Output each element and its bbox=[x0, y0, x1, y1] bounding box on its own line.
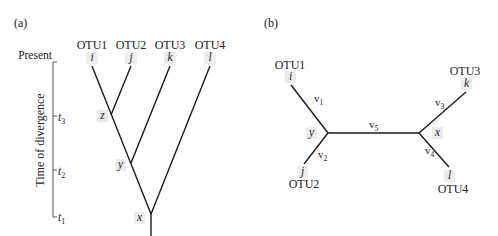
phylogenetic-trees-figure: (a) OTU1 OTU2 OTU3 OTU4 Present i j k l … bbox=[0, 0, 498, 236]
panel-a-label: (a) bbox=[14, 16, 27, 30]
node-z: z bbox=[99, 109, 105, 121]
b-leaf-i: i bbox=[289, 70, 292, 82]
branch-v4: v4 bbox=[425, 144, 435, 159]
leaf-i: i bbox=[90, 51, 93, 63]
b-otu3-label: OTU3 bbox=[450, 64, 481, 78]
branch-v5: v5 bbox=[369, 118, 379, 133]
b-otu2-label: OTU2 bbox=[289, 177, 320, 191]
leaf-k: k bbox=[167, 51, 173, 63]
tick-t1: t1 bbox=[58, 211, 65, 226]
otu1-label: OTU1 bbox=[77, 38, 108, 52]
panel-b-unrooted-tree: (b) OTU1 i j OTU2 OTU3 k l OTU4 y x v1 bbox=[264, 16, 480, 196]
b-leaf-l: l bbox=[448, 169, 451, 181]
otu2-label: OTU2 bbox=[116, 38, 147, 52]
panel-b-label: (b) bbox=[264, 16, 278, 30]
otu4-label: OTU4 bbox=[195, 38, 226, 52]
b-node-y: y bbox=[308, 126, 315, 139]
b-leaf-k: k bbox=[464, 77, 470, 89]
b-node-x: x bbox=[434, 126, 441, 138]
rooted-tree-branches bbox=[92, 66, 210, 236]
panel-a-rooted-tree: (a) OTU1 OTU2 OTU3 OTU4 Present i j k l … bbox=[14, 16, 225, 236]
time-axis-label: Time of divergence bbox=[33, 93, 47, 186]
branch-v3: v3 bbox=[435, 96, 445, 111]
node-y: y bbox=[117, 158, 124, 171]
leaf-l: l bbox=[208, 51, 211, 63]
branch-v1: v1 bbox=[314, 92, 324, 107]
b-otu4-label: OTU4 bbox=[438, 182, 469, 196]
branch-v2: v2 bbox=[318, 148, 328, 163]
otu3-label: OTU3 bbox=[155, 38, 186, 52]
tick-t2: t2 bbox=[58, 165, 65, 180]
time-axis bbox=[53, 62, 57, 217]
present-label: Present bbox=[18, 49, 53, 61]
node-x: x bbox=[136, 211, 143, 223]
tick-t3: t3 bbox=[58, 111, 65, 126]
